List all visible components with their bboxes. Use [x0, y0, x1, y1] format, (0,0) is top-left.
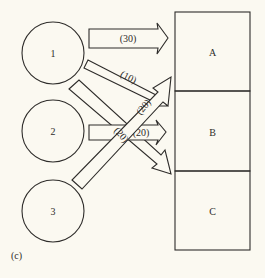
- destination-label-c: C: [209, 206, 216, 217]
- source-label-1: 1: [51, 48, 56, 59]
- destination-box-c: C: [175, 171, 250, 250]
- source-node-2: 2: [22, 100, 84, 162]
- source-node-3: 3: [22, 180, 84, 242]
- transportation-diagram: A B C 1 2 3 (10) (20) (20) (20): [0, 0, 265, 278]
- destination-box-b: B: [175, 91, 250, 171]
- destination-label-a: A: [209, 47, 217, 58]
- destination-box-a: A: [175, 12, 250, 91]
- source-label-2: 2: [51, 126, 56, 137]
- source-label-3: 3: [51, 206, 56, 217]
- destination-label-b: B: [209, 127, 216, 138]
- flow-label-1-to-a: (30): [120, 33, 137, 45]
- figure-caption: (c): [11, 250, 22, 261]
- flow-arrow-1-to-a: (30): [89, 23, 168, 54]
- source-node-1: 1: [22, 22, 84, 84]
